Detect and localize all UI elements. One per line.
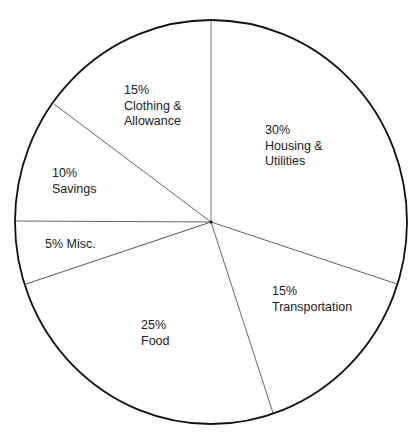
pie-center bbox=[209, 220, 212, 223]
label-transportation-line1: Transportation bbox=[272, 300, 352, 316]
label-clothing: 15% Clothing & Allowance bbox=[124, 83, 182, 130]
label-clothing-line2: Allowance bbox=[124, 114, 182, 130]
pie-chart-graphic bbox=[0, 0, 417, 438]
pie-chart: 15% Clothing & Allowance 30% Housing & U… bbox=[0, 0, 417, 438]
label-savings: 10% Savings bbox=[52, 166, 96, 197]
label-misc: 5% Misc. bbox=[45, 237, 96, 253]
label-housing-pct: 30% bbox=[265, 123, 323, 139]
label-housing: 30% Housing & Utilities bbox=[265, 123, 323, 170]
label-food-pct: 25% bbox=[141, 318, 170, 334]
label-food-line1: Food bbox=[141, 334, 170, 350]
label-savings-pct: 10% bbox=[52, 166, 96, 182]
label-clothing-pct: 15% bbox=[124, 83, 182, 99]
label-housing-line1: Housing & bbox=[265, 139, 323, 155]
label-savings-line1: Savings bbox=[52, 182, 96, 198]
label-transportation-pct: 15% bbox=[272, 284, 352, 300]
label-housing-line2: Utilities bbox=[265, 154, 323, 170]
label-food: 25% Food bbox=[141, 318, 170, 349]
label-clothing-line1: Clothing & bbox=[124, 99, 182, 115]
label-misc-text: 5% Misc. bbox=[45, 237, 96, 253]
label-transportation: 15% Transportation bbox=[272, 284, 352, 315]
